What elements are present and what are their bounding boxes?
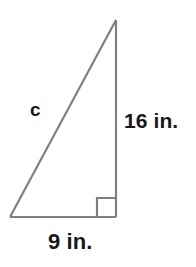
triangle-outline bbox=[10, 20, 116, 217]
horizontal-leg-label: 9 in. bbox=[48, 231, 93, 253]
right-angle-marker-icon bbox=[97, 198, 116, 217]
hypotenuse-line bbox=[10, 20, 116, 217]
right-triangle-figure: c 16 in. 9 in. bbox=[0, 0, 196, 267]
hypotenuse-label: c bbox=[30, 100, 41, 119]
vertical-leg-label: 16 in. bbox=[124, 110, 178, 131]
triangle-drawing bbox=[0, 0, 196, 267]
